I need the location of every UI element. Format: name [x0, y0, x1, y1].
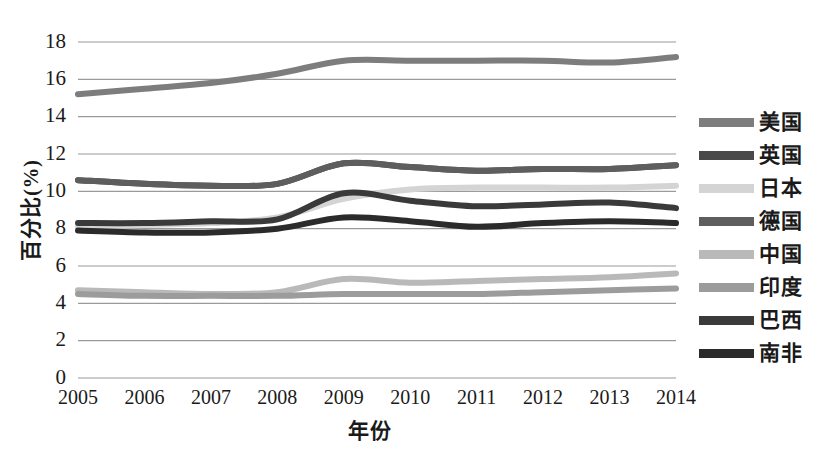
legend-swatch-icon: [699, 349, 754, 358]
x-axis-tick-label: 2011: [457, 386, 496, 408]
legend-swatch-icon: [699, 118, 754, 127]
y-axis-tick-label: 6: [56, 253, 67, 277]
legend-item[interactable]: 中国: [699, 238, 814, 271]
y-axis-tick-label: 4: [56, 290, 67, 314]
x-axis-tick-label: 2010: [390, 386, 430, 408]
legend-item[interactable]: 巴西: [699, 304, 814, 337]
legend-item[interactable]: 美国: [699, 106, 814, 139]
x-axis-tick-label: 2005: [58, 386, 98, 408]
legend-item-label: 中国: [759, 244, 802, 265]
legend-swatch-icon: [699, 151, 754, 160]
y-axis-tick-label: 16: [45, 66, 66, 90]
legend-item-label: 印度: [759, 277, 802, 298]
legend-item-label: 德国: [759, 211, 802, 232]
legend-swatch-icon: [699, 250, 754, 259]
legend-item[interactable]: 日本: [699, 172, 814, 205]
x-axis-tick-label: 2012: [523, 386, 563, 408]
legend-item[interactable]: 南非: [699, 337, 814, 370]
x-axis-tick-labels: 2005200620072008200920102011201220132014: [58, 386, 696, 408]
y-axis-tick-label: 10: [45, 178, 66, 202]
legend-swatch-icon: [699, 217, 754, 226]
y-axis-tick-label: 18: [45, 29, 66, 53]
x-axis-tick-label: 2014: [656, 386, 696, 408]
legend-item[interactable]: 英国: [699, 139, 814, 172]
x-axis-tick-label: 2008: [257, 386, 297, 408]
x-axis-title: 年份: [60, 414, 680, 444]
series-line-3: [78, 163, 676, 187]
legend-item-label: 日本: [759, 178, 802, 199]
gridlines: [78, 42, 676, 378]
plot-area: 024681012141618 200520062007200820092010…: [0, 0, 817, 464]
legend-swatch-icon: [699, 283, 754, 292]
legend-item-label: 英国: [759, 145, 802, 166]
y-axis-tick-labels: 024681012141618: [45, 29, 67, 389]
legend-item[interactable]: 德国: [699, 205, 814, 238]
x-axis-tick-label: 2006: [124, 386, 164, 408]
legend-item-label: 美国: [759, 112, 802, 133]
y-axis-tick-label: 14: [45, 103, 67, 127]
legend-swatch-icon: [699, 316, 754, 325]
series-lines: [78, 57, 676, 296]
y-axis-tick-label: 2: [56, 327, 67, 351]
legend-item[interactable]: 印度: [699, 271, 814, 304]
y-axis-tick-label: 12: [45, 141, 66, 165]
x-axis-tick-label: 2007: [191, 386, 231, 408]
legend-swatch-icon: [699, 184, 754, 193]
series-line-0: [78, 57, 676, 94]
x-axis-tick-label: 2009: [324, 386, 364, 408]
legend: 美国英国日本德国中国印度巴西南非: [699, 106, 814, 370]
y-axis-tick-label: 8: [56, 215, 67, 239]
x-axis-tick-label: 2013: [590, 386, 630, 408]
legend-item-label: 南非: [759, 343, 802, 364]
legend-item-label: 巴西: [759, 310, 802, 331]
line-chart: 百分比(%) 024681012141618 20052006200720082…: [0, 0, 817, 464]
